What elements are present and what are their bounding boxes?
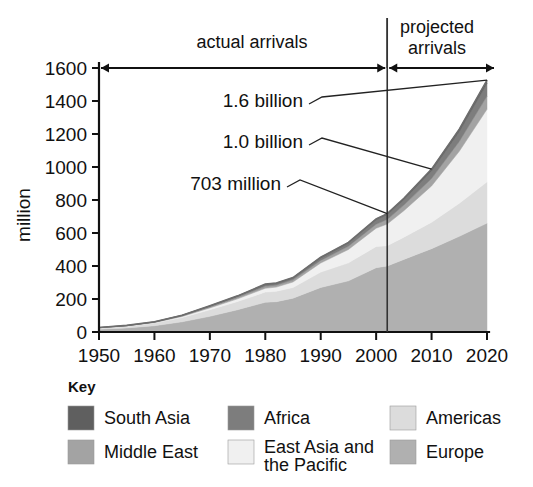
legend-swatch-americas <box>390 406 416 430</box>
legend-swatch-europe <box>390 440 416 464</box>
x-tick-label: 2010 <box>410 345 452 366</box>
legend-title: Key <box>68 378 96 395</box>
x-tick-label: 1980 <box>244 345 286 366</box>
legend-swatch-east-asia-and-the-pacific <box>228 440 254 464</box>
x-tick-label: 1970 <box>189 345 231 366</box>
projected-arrivals-label-line2: arrivals <box>408 38 466 58</box>
stacked-area-chart: 19501960197019801990200020102020 0200400… <box>0 0 533 487</box>
legend-swatch-middle-east <box>68 440 94 464</box>
tourism-arrivals-figure: 19501960197019801990200020102020 0200400… <box>0 0 533 487</box>
legend-label-middle-east: Middle East <box>104 442 198 462</box>
y-tick-label: 600 <box>55 223 87 244</box>
y-tick-label: 200 <box>55 289 87 310</box>
y-tick-label: 1000 <box>45 157 87 178</box>
annotation-label-1: 1.0 billion <box>223 131 303 152</box>
annotation-label-0: 1.6 billion <box>223 90 303 111</box>
x-tick-label: 1950 <box>78 345 120 366</box>
y-axis-title: million <box>13 188 34 242</box>
y-tick-label: 1600 <box>45 58 87 79</box>
x-tick-label: 1960 <box>133 345 175 366</box>
legend-label-east-asia-and-the-pacific-line1: East Asia and <box>264 437 374 457</box>
annotation-label-2: 703 million <box>190 173 281 194</box>
y-tick-label: 1200 <box>45 124 87 145</box>
y-tick-label: 1400 <box>45 91 87 112</box>
legend-label-europe: Europe <box>426 442 484 462</box>
legend-label-americas: Americas <box>426 408 501 428</box>
legend-swatch-africa <box>228 406 254 430</box>
x-tick-label: 2000 <box>355 345 397 366</box>
y-tick-label: 800 <box>55 190 87 211</box>
x-tick-label: 1990 <box>300 345 342 366</box>
projected-arrivals-label-line1: projected <box>400 17 474 37</box>
legend-label-south-asia: South Asia <box>104 408 191 428</box>
legend-label-east-asia-and-the-pacific-line2: the Pacific <box>264 455 347 475</box>
y-tick-label: 0 <box>76 322 87 343</box>
actual-arrivals-label: actual arrivals <box>196 32 307 52</box>
x-tick-label: 2020 <box>466 345 508 366</box>
legend-label-africa: Africa <box>264 408 311 428</box>
y-tick-label: 400 <box>55 256 87 277</box>
legend-swatch-south-asia <box>68 406 94 430</box>
